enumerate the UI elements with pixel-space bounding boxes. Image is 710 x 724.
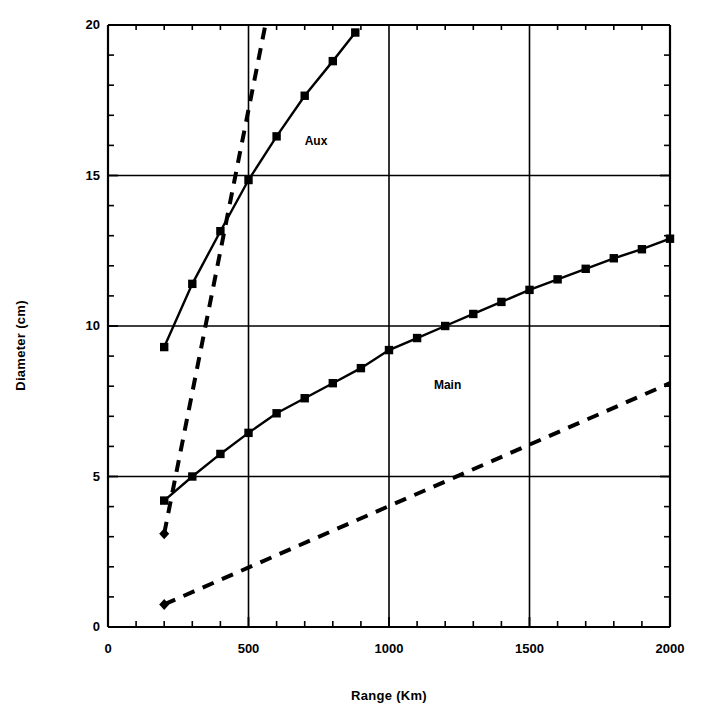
y-tick-label: 0 — [58, 619, 100, 634]
y-axis-label-container: Diameter (cm) — [0, 230, 40, 460]
data-point-marker — [413, 334, 421, 342]
data-point-marker — [301, 92, 309, 100]
data-point-marker — [497, 298, 505, 306]
series-line-main-dashed — [164, 383, 670, 604]
data-point-marker — [272, 132, 280, 140]
data-point-marker — [216, 450, 224, 458]
data-point-marker — [441, 322, 449, 330]
x-axis-label: Range (Km) — [351, 688, 427, 703]
data-point-marker — [244, 176, 252, 184]
gridlines — [108, 25, 670, 627]
data-point-marker — [666, 235, 674, 243]
series-aux — [160, 28, 359, 351]
data-point-marker — [160, 496, 168, 504]
x-tick-label: 1500 — [515, 641, 544, 656]
data-point-marker — [610, 254, 618, 262]
data-point-marker — [638, 245, 646, 253]
x-tick-label: 2000 — [656, 641, 685, 656]
series-line-aux — [164, 33, 355, 348]
data-point-marker — [272, 409, 280, 417]
data-point-marker — [553, 275, 561, 283]
y-axis-label: Diameter (cm) — [13, 300, 28, 391]
x-tick-label: 1000 — [375, 641, 404, 656]
data-point-marker — [357, 364, 365, 372]
data-point-marker — [329, 379, 337, 387]
data-point-marker — [385, 346, 393, 354]
data-point-marker — [582, 265, 590, 273]
series-annotation-main: Main — [434, 378, 461, 392]
data-point-marker — [159, 599, 169, 610]
y-tick-label: 15 — [58, 168, 100, 183]
series-annotation-aux: Aux — [305, 134, 328, 148]
series-main — [160, 235, 674, 505]
data-point-marker — [188, 280, 196, 288]
x-tick-label: 500 — [238, 641, 260, 656]
data-series-layer — [159, 25, 674, 610]
data-point-marker — [160, 343, 168, 351]
chart-plot-area — [0, 0, 710, 724]
data-point-marker — [525, 286, 533, 294]
series-line-main — [164, 239, 670, 501]
data-point-marker — [351, 28, 359, 36]
x-axis-label-container: Range (Km) — [108, 686, 670, 704]
data-point-marker — [244, 429, 252, 437]
chart-figure: Diameter (cm) Range (Km) 05101520 050010… — [0, 0, 710, 724]
data-point-marker — [188, 472, 196, 480]
data-point-marker — [159, 528, 169, 539]
data-point-marker — [329, 57, 337, 65]
y-tick-label: 20 — [58, 17, 100, 32]
data-point-marker — [301, 394, 309, 402]
x-tick-label: 0 — [104, 641, 111, 656]
data-point-marker — [469, 310, 477, 318]
series-main-dashed — [159, 383, 670, 610]
series-aux-dashed — [159, 25, 265, 539]
y-tick-label: 5 — [58, 469, 100, 484]
y-tick-label: 10 — [58, 318, 100, 333]
